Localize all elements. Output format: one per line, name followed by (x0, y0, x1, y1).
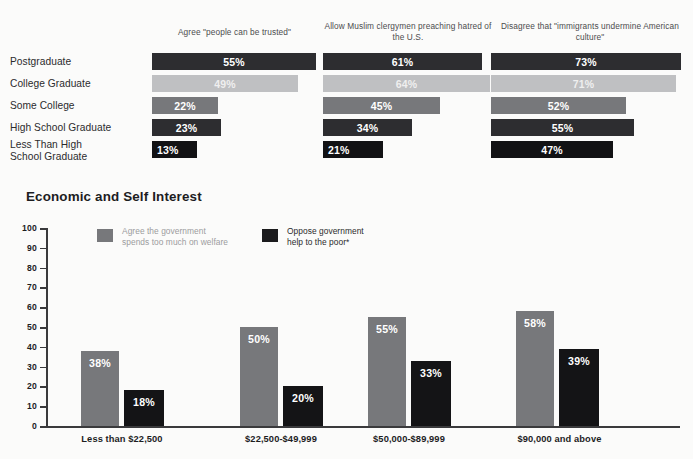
y-tick (40, 307, 47, 309)
x-axis-label-50000-89999: $50,000-$89,999 (349, 434, 469, 444)
section-title: Economic and Self Interest (26, 189, 202, 204)
y-tick (40, 406, 47, 408)
bar-clergymen-some-college: 45% (323, 97, 440, 114)
bar-help-poor-90000-and-above: 39% (559, 349, 599, 426)
bar-clergymen-postgraduate: 61% (323, 53, 482, 70)
row-label-less-than-high-school: Less Than High School Graduate (10, 139, 87, 162)
bar-help-poor-50000-89999: 33% (411, 361, 451, 426)
legend-swatch-help-poor (262, 229, 278, 242)
row-label-postgraduate: Postgraduate (10, 56, 71, 68)
bar-clergymen-less-than-high-school: 21% (323, 141, 383, 158)
y-axis-label: 90 (7, 243, 37, 253)
y-axis-label: 100 (7, 223, 37, 233)
bar-immigrants-less-than-high-school: 47% (491, 141, 613, 158)
column-header-immigrants: Disagree that "immigrants undermine Amer… (497, 21, 683, 42)
bar-immigrants-some-college: 52% (491, 97, 626, 114)
bar-trust-some-college: 22% (152, 97, 218, 114)
x-axis-label-90000-and-above: $90,000 and above (497, 434, 622, 444)
bar-immigrants-college-graduate: 71% (491, 75, 676, 92)
x-axis-line (46, 426, 680, 428)
bar-trust-less-than-high-school: 13% (152, 141, 197, 158)
y-tick (40, 327, 47, 329)
row-label-college-graduate: College Graduate (10, 78, 91, 90)
row-label-some-college: Some College (10, 100, 75, 112)
y-tick (40, 347, 47, 349)
column-header-muslim-clergymen: Allow Muslim clergymen preaching hatred … (322, 21, 494, 42)
bar-help-poor-22500-49999: 20% (283, 386, 323, 426)
y-tick (40, 386, 47, 388)
bar-immigrants-high-school-graduate: 55% (491, 119, 634, 136)
y-tick (40, 228, 47, 230)
y-tick (40, 248, 47, 250)
y-axis-label: 10 (7, 401, 37, 411)
y-tick (40, 367, 47, 369)
x-axis-label-22500-49999: $22,500-$49,999 (221, 434, 341, 444)
y-axis-label: 70 (7, 282, 37, 292)
bar-help-poor-less-than-22500: 18% (124, 390, 164, 426)
bar-trust-high-school-graduate: 23% (152, 119, 221, 136)
y-axis-label: 20 (7, 381, 37, 391)
bar-welfare-less-than-22500: 38% (81, 351, 119, 426)
legend-label-help-poor: Oppose government help to the poor* (287, 226, 417, 247)
x-axis-label-less-than-22500: Less than $22,500 (62, 434, 182, 444)
education-panel-chart: Agree "people can be trusted" Allow Musl… (0, 0, 693, 180)
y-axis-label: 50 (7, 322, 37, 332)
row-label-high-school-graduate: High School Graduate (10, 122, 111, 134)
y-axis-label: 80 (7, 263, 37, 273)
y-axis-label: 30 (7, 362, 37, 372)
bar-clergymen-high-school-graduate: 34% (323, 119, 412, 136)
legend-label-welfare: Agree the government spends too much on … (122, 226, 262, 247)
bar-trust-postgraduate: 55% (152, 53, 316, 70)
income-bar-chart: 100 90 80 70 60 50 40 30 20 10 0 Agree t… (0, 222, 693, 459)
legend-swatch-welfare (97, 229, 113, 242)
bar-welfare-90000-and-above: 58% (516, 311, 554, 426)
y-tick (40, 426, 47, 428)
y-tick (40, 287, 47, 289)
bar-welfare-50000-89999: 55% (368, 317, 406, 426)
y-axis-label: 60 (7, 302, 37, 312)
bar-welfare-22500-49999: 50% (240, 327, 278, 426)
y-axis-label: 0 (7, 421, 37, 431)
y-tick (40, 268, 47, 270)
y-axis-label: 40 (7, 342, 37, 352)
bar-clergymen-college-graduate: 64% (323, 75, 490, 92)
bar-immigrants-postgraduate: 73% (491, 53, 681, 70)
bar-trust-college-graduate: 49% (152, 75, 298, 92)
column-header-trust: Agree "people can be trusted" (152, 27, 317, 38)
